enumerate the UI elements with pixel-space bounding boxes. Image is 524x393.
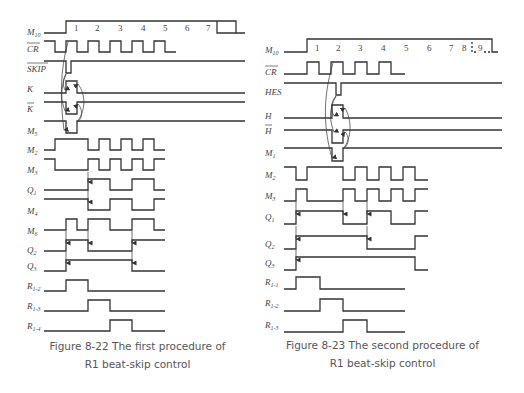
caption-line-2: R1 beat-skip control	[30, 355, 245, 373]
label-q2: Q2	[27, 245, 37, 256]
label-skip-bar: SKIP	[27, 64, 47, 74]
label-q1: Q1	[265, 212, 275, 223]
label-q2: Q2	[265, 239, 275, 250]
label-q3: Q3	[265, 258, 275, 269]
label-k: K	[26, 84, 34, 94]
caption-line-1: Figure 8-23 The second procedure of	[270, 336, 495, 354]
timing-diagrams: M10 CR SKIP K K M5 M2 M3 Q1 M4 M6 Q2 Q3 …	[0, 0, 524, 393]
label-m2: M2	[26, 145, 38, 156]
figure-8-23-caption: Figure 8-23 The second procedure of R1 b…	[270, 336, 495, 372]
figure-8-22-caption: Figure 8-22 The first procedure of R1 be…	[30, 337, 245, 373]
label-m4: M4	[26, 206, 38, 217]
label-r1-2: R1-2	[264, 298, 279, 309]
svg-text:2: 2	[95, 23, 100, 33]
svg-text:4: 4	[381, 43, 386, 53]
label-q3: Q3	[27, 261, 37, 272]
label-h-bar: H	[264, 126, 272, 136]
svg-text:4: 4	[141, 23, 146, 33]
label-r1-3: R1-3	[264, 320, 279, 331]
figure-8-22-diagram: M10 CR SKIP K K M5 M2 M3 Q1 M4 M6 Q2 Q3 …	[26, 21, 245, 332]
label-m3: M3	[264, 191, 276, 202]
svg-text:1: 1	[74, 23, 79, 33]
caption-line-2: R1 beat-skip control	[270, 354, 495, 372]
label-m3: M3	[26, 165, 38, 176]
label-h: H	[264, 111, 272, 121]
svg-text:6: 6	[185, 23, 190, 33]
label-r1-3: R1-3	[26, 301, 41, 312]
svg-text:1: 1	[315, 43, 320, 53]
label-m5: M5	[26, 126, 38, 137]
label-m6: M6	[26, 226, 38, 237]
label-r1-1: R1-1	[264, 277, 279, 288]
svg-text:7: 7	[449, 43, 454, 53]
waveforms-left	[44, 21, 245, 331]
label-r1-2: R1-2	[26, 281, 41, 292]
signal-labels-right: M10 CR HES H H M1 M2 M3 Q1 Q2 Q3 R1-1 R1…	[264, 45, 282, 331]
svg-text:2: 2	[336, 43, 341, 53]
svg-text:8: 8	[462, 43, 467, 53]
signal-labels-left: M10 CR SKIP K K M5 M2 M3 Q1 M4 M6 Q2 Q3 …	[26, 27, 48, 332]
label-hes-bar: HES	[264, 87, 282, 97]
beat-numbers-right: 1 2 3 4 5 6 7 8 9	[315, 43, 483, 53]
label-m1: M1	[264, 148, 276, 159]
caption-line-1: Figure 8-22 The first procedure of	[30, 337, 245, 355]
beat-numbers-left: 1 2 3 4 5 6 7	[74, 23, 211, 33]
label-k-bar: K	[26, 104, 34, 114]
figure-8-23-diagram: M10 CR HES H H M1 M2 M3 Q1 Q2 Q3 R1-1 R1…	[264, 39, 502, 332]
svg-text:3: 3	[118, 23, 123, 33]
label-m10: M10	[26, 27, 41, 38]
svg-text:3: 3	[358, 43, 363, 53]
label-r1-4: R1-4	[26, 321, 41, 332]
svg-text:7: 7	[206, 23, 211, 33]
label-cr-bar: CR	[27, 44, 39, 54]
waveforms-right	[284, 39, 502, 332]
svg-text:9: 9	[478, 43, 483, 53]
svg-text:5: 5	[404, 43, 409, 53]
label-q1: Q1	[27, 185, 37, 196]
label-m10: M10	[264, 45, 279, 56]
svg-text:5: 5	[163, 23, 168, 33]
label-cr-bar: CR	[265, 67, 277, 77]
label-m2: M2	[264, 170, 276, 181]
svg-text:6: 6	[427, 43, 432, 53]
